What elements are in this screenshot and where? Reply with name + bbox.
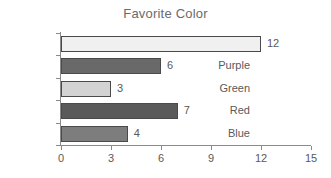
plot-area: 12 6 3 7 4 [61,33,311,145]
y-tick-mark [56,55,60,56]
bar-row: 12 [61,33,311,55]
y-tick-mark [56,78,60,79]
bar-value-label: 3 [117,82,123,94]
bar-row: 7 [61,100,311,122]
bar-row: 6 [61,55,311,77]
bar-purple [61,58,161,74]
x-tick-mark [311,146,312,150]
x-tick-label: 6 [158,152,164,164]
x-tick-mark [211,146,212,150]
y-tick-mark [56,100,60,101]
chart-title: Favorite Color [0,6,331,21]
x-axis-tick-labels: 03691215 [61,152,311,168]
bar-chart: Favorite Color Cyan Purple Green Red Blu… [0,0,331,178]
y-tick-mark [56,33,60,34]
x-tick-mark [111,146,112,150]
x-tick-mark [261,146,262,150]
y-tick-mark [56,123,60,124]
bar-row: 3 [61,78,311,100]
x-tick-mark [61,146,62,150]
x-tick-label: 0 [58,152,64,164]
bar-value-label: 12 [267,37,279,49]
bar-blue [61,126,128,142]
y-tick-mark [56,145,60,146]
bar-value-label: 7 [184,104,190,116]
bar-red [61,103,178,119]
x-axis-ticks [61,146,311,151]
bar-green [61,81,111,97]
x-tick-mark [161,146,162,150]
x-tick-label: 15 [305,152,317,164]
x-tick-label: 3 [108,152,114,164]
x-tick-label: 12 [255,152,267,164]
bar-value-label: 6 [167,59,173,71]
x-tick-label: 9 [208,152,214,164]
bar-cyan [61,36,261,52]
y-axis-labels: Cyan Purple Green Red Blue [0,33,56,145]
bar-row: 4 [61,123,311,145]
bar-value-label: 4 [134,127,140,139]
